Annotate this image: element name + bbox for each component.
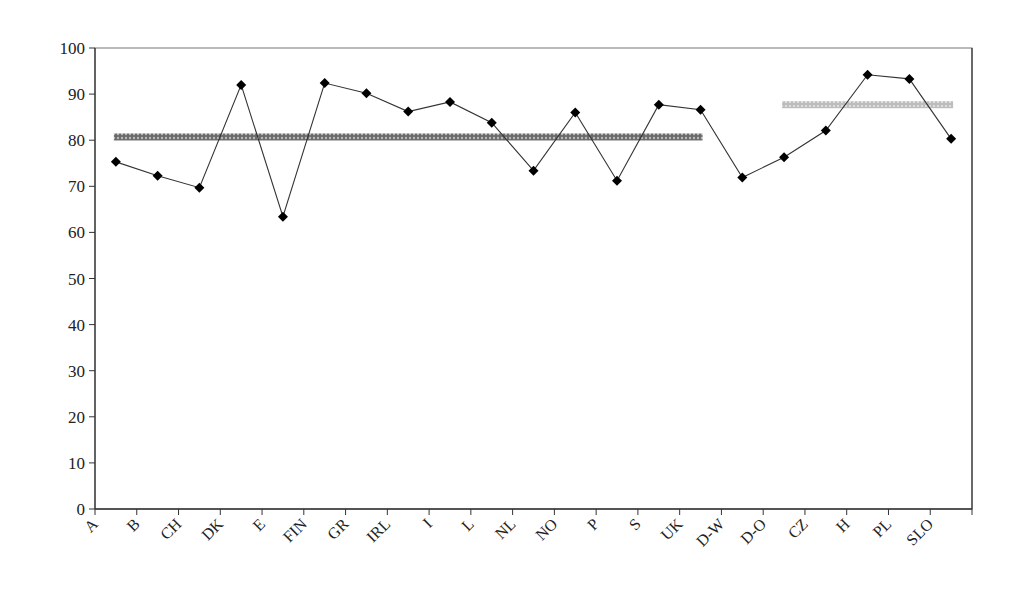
x-tick-label: NL bbox=[492, 515, 519, 542]
x-tick-label: D-O bbox=[737, 515, 769, 547]
y-tick-label: 100 bbox=[60, 39, 86, 58]
x-tick-label: DK bbox=[198, 515, 227, 544]
x-tick-label: CH bbox=[157, 515, 185, 543]
y-tick-label: 30 bbox=[68, 362, 85, 381]
x-tick-label: NO bbox=[532, 515, 560, 543]
y-tick-label: 50 bbox=[68, 270, 85, 289]
x-tick-label: SLO bbox=[903, 515, 936, 548]
x-tick-label: E bbox=[249, 515, 268, 534]
x-tick-label: PL bbox=[869, 515, 894, 540]
x-tick-label: P bbox=[584, 515, 602, 533]
data-point-diamond-icon bbox=[320, 78, 330, 88]
data-point-diamond-icon bbox=[821, 126, 831, 136]
reference-lines bbox=[114, 101, 953, 140]
data-point-diamond-icon bbox=[612, 176, 622, 186]
data-point-diamond-icon bbox=[779, 152, 789, 162]
x-tick-label: CZ bbox=[785, 515, 811, 541]
y-tick-label: 90 bbox=[68, 85, 85, 104]
data-point-diamond-icon bbox=[654, 100, 664, 110]
y-tick-label: 60 bbox=[68, 223, 85, 242]
x-tick-label: UK bbox=[657, 515, 686, 544]
x-tick-label: B bbox=[123, 515, 143, 535]
data-point-diamond-icon bbox=[904, 74, 914, 84]
y-tick-label: 70 bbox=[68, 177, 85, 196]
data-point-diamond-icon bbox=[278, 212, 288, 222]
x-tick-label: I bbox=[419, 515, 435, 531]
data-point-diamond-icon bbox=[361, 88, 371, 98]
line-chart: 0102030405060708090100 ABCHDKEFINGRIRLIL… bbox=[0, 0, 1015, 602]
average-band bbox=[114, 133, 703, 140]
x-tick-label: IRL bbox=[363, 515, 393, 545]
series-line bbox=[116, 75, 951, 217]
y-tick-label: 10 bbox=[68, 454, 85, 473]
y-tick-label: 40 bbox=[68, 316, 85, 335]
data-point-diamond-icon bbox=[194, 183, 204, 193]
data-point-diamond-icon bbox=[737, 173, 747, 183]
y-tick-label: 20 bbox=[68, 408, 85, 427]
y-tick-label: 80 bbox=[68, 131, 85, 150]
data-point-diamond-icon bbox=[445, 97, 455, 107]
data-point-diamond-icon bbox=[153, 171, 163, 181]
x-tick-label: L bbox=[458, 515, 477, 534]
data-point-diamond-icon bbox=[946, 134, 956, 144]
data-point-diamond-icon bbox=[236, 80, 246, 90]
plot-frame bbox=[95, 48, 972, 509]
x-axis: ABCHDKEFINGRIRLILNLNOPSUKD-WD-OCZHPLSLO bbox=[81, 509, 972, 550]
data-point-diamond-icon bbox=[863, 70, 873, 80]
data-point-diamond-icon bbox=[696, 105, 706, 115]
x-tick-label: GR bbox=[324, 515, 352, 543]
x-tick-label: H bbox=[833, 515, 854, 536]
x-tick-label: D-W bbox=[693, 514, 728, 549]
plot-area bbox=[95, 48, 972, 509]
data-point-diamond-icon bbox=[570, 108, 580, 118]
x-tick-label: S bbox=[626, 515, 644, 533]
y-axis: 0102030405060708090100 bbox=[60, 39, 96, 519]
y-tick-label: 0 bbox=[77, 500, 86, 519]
data-point-diamond-icon bbox=[111, 157, 121, 167]
x-tick-label: FIN bbox=[280, 515, 311, 546]
data-point-diamond-icon bbox=[403, 107, 413, 117]
data-series bbox=[111, 70, 956, 222]
